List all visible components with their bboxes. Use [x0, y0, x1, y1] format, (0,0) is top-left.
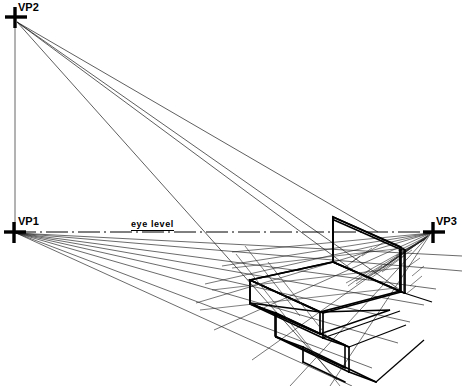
hatch-22	[406, 286, 416, 294]
vanishing-point-2-label: VP2	[18, 2, 39, 13]
vanishing-point-1-label: VP1	[18, 216, 39, 227]
vanishing-point-3-label: VP3	[436, 216, 457, 227]
perspective-construction-svg	[0, 0, 462, 386]
vanishing-point-markers	[4, 7, 445, 243]
hatch-21	[410, 276, 422, 286]
vp2-ray-3	[17, 22, 355, 272]
return-edge-1	[401, 292, 432, 302]
eye-level-label: eye level	[131, 219, 174, 231]
vp2-ray-1	[17, 22, 378, 232]
perspective-diagram-page: VP2 VP1 VP3 eye level	[0, 0, 462, 386]
